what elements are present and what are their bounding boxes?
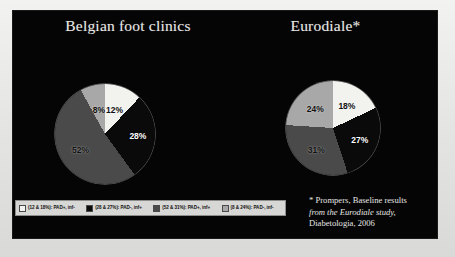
legend-label-2: (52 & 31%): PAD+, inf+ <box>162 205 210 211</box>
footnote-source-citation: * Prompers, Baseline results from the Eu… <box>309 195 437 230</box>
footnote-marker-author: * Prompers, Baseline results <box>309 195 407 205</box>
right-slice-label-18: 18% <box>338 101 355 111</box>
legend-swatch-dark-gray <box>153 205 160 212</box>
legend-item-pad-plus-inf-minus: (12 & 18%): PAD+, inf- <box>18 205 84 212</box>
chart-legend: (12 & 18%): PAD+, inf- (28 & 27%): PAD-,… <box>15 200 286 216</box>
legend-swatch-light-gray <box>222 205 229 212</box>
left-slice-label-12: 12% <box>106 105 123 115</box>
left-pie-chart: 12% 28% 52% 8% <box>55 84 155 184</box>
right-slice-label-27: 27% <box>351 135 368 145</box>
footnote-line-3: Diabetologia, 2006 <box>309 218 437 230</box>
right-slice-label-31: 31% <box>308 145 325 155</box>
right-pie-disc <box>286 81 380 175</box>
legend-label-3: (8 & 24%): PAD-, inf- <box>231 205 274 211</box>
legend-item-pad-plus-inf-plus: (52 & 31%): PAD+, inf+ <box>152 205 219 212</box>
left-slice-label-8: 8% <box>93 105 105 115</box>
legend-swatch-white <box>19 205 26 212</box>
left-slice-label-52: 52% <box>72 145 89 155</box>
slide-page: Belgian foot clinics Eurodiale* 12% 28% … <box>0 0 455 257</box>
legend-label-1: (28 & 27%): PAD-, inf+ <box>95 205 142 211</box>
right-slice-label-24: 24% <box>307 104 324 114</box>
legend-swatch-black <box>86 205 93 212</box>
left-chart-title: Belgian foot clinics <box>43 17 213 34</box>
right-pie-chart: 18% 27% 31% 24% <box>286 81 380 175</box>
footnote-line-1: * Prompers, Baseline results <box>309 195 437 207</box>
legend-label-0: (12 & 18%): PAD+, inf- <box>28 205 75 211</box>
presentation-slide: Belgian foot clinics Eurodiale* 12% 28% … <box>13 11 437 238</box>
left-slice-label-28: 28% <box>129 131 146 141</box>
footnote-line-2: from the Eurodiale study, <box>309 207 437 219</box>
legend-item-pad-minus-inf-plus: (28 & 27%): PAD-, inf+ <box>85 205 151 212</box>
right-chart-title: Eurodiale* <box>238 17 413 34</box>
legend-item-pad-minus-inf-minus: (8 & 24%): PAD-, inf- <box>221 205 283 212</box>
